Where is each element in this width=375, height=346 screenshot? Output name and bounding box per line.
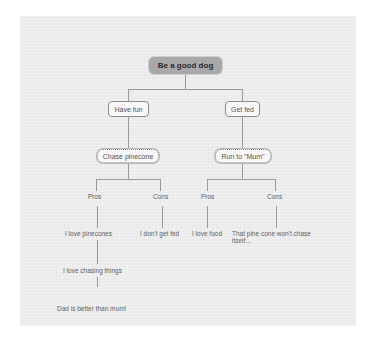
connector — [128, 89, 242, 90]
branch-label: Have fun — [114, 106, 142, 113]
branch-node-have-fun[interactable]: Have fun — [108, 101, 149, 117]
subnode-label: Run to "Mum" — [221, 153, 264, 160]
connector — [185, 74, 186, 89]
connector — [96, 179, 160, 180]
leaf-item[interactable]: I love food — [192, 230, 222, 237]
connector — [207, 179, 208, 191]
root-node[interactable]: Be a good dog — [149, 57, 222, 74]
connector — [207, 206, 208, 228]
connector — [128, 117, 129, 149]
connector — [97, 240, 98, 264]
connector — [276, 206, 277, 228]
branch-label: Get fed — [231, 106, 254, 113]
connector — [162, 206, 163, 228]
leaf-item[interactable]: I don't get fed — [140, 230, 179, 237]
connector — [128, 89, 129, 101]
subnode-chase-pinecone[interactable]: Chase pinecone — [97, 149, 159, 163]
subnode-run-to-mum[interactable]: Run to "Mum" — [215, 149, 271, 163]
subnode-label: Chase pinecone — [103, 153, 154, 160]
connector — [242, 117, 243, 149]
leaf-item[interactable]: That pine cone won't chase itself... — [232, 230, 314, 244]
connector — [96, 179, 97, 191]
leaf-item[interactable]: I love chasing things — [63, 267, 122, 274]
connector — [242, 164, 243, 179]
leaf-item[interactable]: I love pinecones — [65, 230, 112, 237]
connector — [97, 277, 98, 287]
connector — [275, 179, 276, 191]
branch-node-get-fed[interactable]: Get fed — [225, 101, 260, 117]
root-label: Be a good dog — [158, 61, 214, 70]
connector — [242, 89, 243, 101]
pros-label[interactable]: Pros — [88, 193, 101, 200]
leaf-item[interactable]: Dad is better than mum! — [57, 305, 126, 312]
cons-label[interactable]: Cons — [267, 193, 282, 200]
connector — [207, 179, 275, 180]
pros-label[interactable]: Pros — [201, 193, 214, 200]
connector — [97, 206, 98, 228]
connector — [128, 164, 129, 179]
connector — [160, 179, 161, 191]
cons-label[interactable]: Cons — [153, 193, 168, 200]
